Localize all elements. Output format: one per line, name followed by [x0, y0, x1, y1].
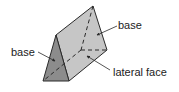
triangular-prism-diagram: base base lateral face	[0, 0, 179, 92]
label-base-left: base	[11, 46, 35, 58]
label-lateral-face: lateral face	[113, 66, 167, 78]
label-base-right: base	[118, 19, 142, 31]
